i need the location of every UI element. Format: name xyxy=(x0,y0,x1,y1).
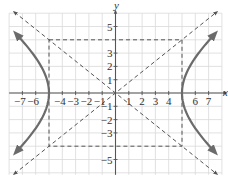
x-tick-label: −2 xyxy=(81,95,93,107)
x-tick-label: −4 xyxy=(54,95,66,107)
x-tick-label: −3 xyxy=(67,95,79,107)
x-tick-label: 6 xyxy=(193,95,199,107)
x-tick-label: 7 xyxy=(206,95,212,107)
y-tick-label: 1 xyxy=(107,74,113,86)
y-tick-label: −2 xyxy=(101,114,113,126)
y-tick-label: −3 xyxy=(101,127,113,139)
y-axis-label: y xyxy=(113,0,119,11)
x-tick-label: −6 xyxy=(27,95,39,107)
y-tick-label: 2 xyxy=(107,60,113,72)
y-tick-label: 5 xyxy=(107,21,113,33)
hyperbola-chart: −7−6−4−3−2−11234675321−1−2−3−5 x y xyxy=(0,0,228,178)
y-tick-label: 3 xyxy=(107,47,113,59)
x-axis-label: x xyxy=(222,86,228,98)
x-tick-label: 4 xyxy=(166,95,172,107)
y-tick-label: −1 xyxy=(101,100,113,112)
x-tick-label: −7 xyxy=(14,95,26,107)
y-tick-label: −5 xyxy=(101,154,113,166)
axes xyxy=(9,11,226,175)
x-tick-label: 2 xyxy=(139,95,145,107)
x-tick-label: 1 xyxy=(126,95,132,107)
x-tick-label: 3 xyxy=(153,95,159,107)
